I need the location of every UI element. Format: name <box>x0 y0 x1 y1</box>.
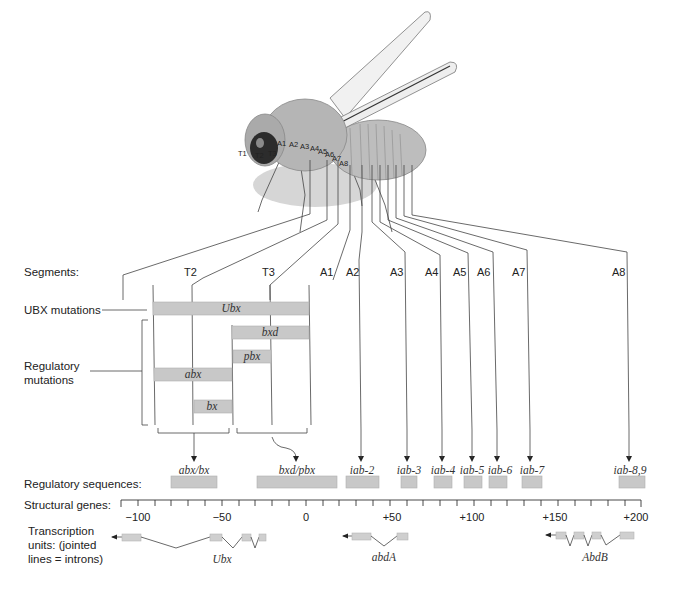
segment-a1: A1 <box>320 266 333 278</box>
leader-a6 <box>396 165 497 430</box>
regseq-bxd-pbx <box>257 476 337 488</box>
regseq-iab89 <box>619 476 645 488</box>
regseq-iab5-label: iab-5 <box>460 464 485 476</box>
mutation-abx-label: abx <box>185 368 203 380</box>
segments-row: T2 T3 A1 A2 A3 A4 A5 A6 A7 A8 <box>184 266 625 278</box>
regulatory-sequences: abx/bx bxd/pbx iab-2 iab-3 iab-4 iab-5 i… <box>171 464 647 488</box>
segment-a2: A2 <box>346 266 359 278</box>
ruler: −100 −50 0 +50 +100 +150 +200 <box>121 500 648 523</box>
regseq-abx-bx-label: abx/bx <box>179 464 211 476</box>
segment-a6: A6 <box>477 266 490 278</box>
transcription-unit-abda: abdA <box>342 533 408 563</box>
ubx-mutations-label: UBX mutations <box>24 304 101 316</box>
tick-plus-200: +200 <box>624 511 649 523</box>
regseq-iab6 <box>489 476 507 488</box>
regseq-iab7-label: iab-7 <box>520 464 546 476</box>
gene-abda-label: abdA <box>372 551 397 563</box>
fly-label-a1: A1 <box>277 139 286 148</box>
mutation-bxd-label: bxd <box>262 326 279 338</box>
segment-t3: T3 <box>262 266 275 278</box>
leader-arrowheads <box>358 430 632 462</box>
structural-genes-label: Structural genes: <box>24 499 111 511</box>
tick-minus-100: −100 <box>126 511 151 523</box>
leader-lines <box>123 160 629 430</box>
fly-label-a8: A8 <box>339 159 348 168</box>
leader-a4 <box>380 165 442 430</box>
leader-a5 <box>388 165 472 430</box>
segments-label: Segments: <box>24 266 79 278</box>
regseq-iab4-label: iab-4 <box>431 464 456 476</box>
fly-illustration: T1 T2 T3 A1 A2 A3 A4 A5 A6 A7 A8 <box>238 12 457 232</box>
transcription-label-3: lines = introns) <box>28 553 103 565</box>
mutation-bx-label: bx <box>207 400 219 412</box>
tick-minus-50: −50 <box>213 511 232 523</box>
regseq-abx-bx <box>171 476 217 488</box>
segment-a3: A3 <box>390 266 403 278</box>
regseq-bxd-pbx-label: bxd/pbx <box>279 464 316 477</box>
fly-label-t1: T1 <box>238 149 247 158</box>
fly-label-a2: A2 <box>289 140 298 149</box>
bithorax-complex-diagram: T1 T2 T3 A1 A2 A3 A4 A5 A6 A7 A8 Segment… <box>0 0 673 597</box>
leader-a3 <box>372 165 407 430</box>
fly-label-t2: T2 <box>255 151 264 160</box>
transcription-label-2: units: (jointed <box>28 539 96 551</box>
segment-a8: A8 <box>612 266 625 278</box>
transcription-unit-abdb: AbdB <box>545 532 634 563</box>
regseq-iab89-label: iab-8,9 <box>614 464 647 477</box>
mutation-pbx-label: pbx <box>243 350 262 363</box>
tick-0: 0 <box>303 511 309 523</box>
regulatory-sequences-label: Regulatory sequences: <box>24 478 142 490</box>
regulatory-mutations-label-1: Regulatory <box>24 360 80 372</box>
regulatory-mutations-label-2: mutations <box>24 374 74 386</box>
fly-label-t3: T3 <box>268 149 277 158</box>
gene-ubx-label: Ubx <box>212 553 232 565</box>
leader-a8 <box>412 165 629 430</box>
mutation-ubx-label: Ubx <box>221 302 241 314</box>
regseq-iab4 <box>434 476 452 488</box>
segment-a4: A4 <box>425 266 438 278</box>
regseq-iab3 <box>401 476 417 488</box>
gene-abdb-label: AbdB <box>581 551 608 563</box>
tick-plus-100: +100 <box>460 511 485 523</box>
segment-a7: A7 <box>512 266 525 278</box>
segment-a5: A5 <box>453 266 466 278</box>
fly-label-a3: A3 <box>300 142 309 151</box>
mutation-grid: Ubx bxd pbx abx bx <box>153 285 311 462</box>
regulatory-bracket <box>142 320 148 425</box>
regseq-iab5 <box>464 476 482 488</box>
transcription-label-1: Transcription <box>28 525 94 537</box>
tick-plus-50: +50 <box>383 511 402 523</box>
leader-a7 <box>404 165 530 430</box>
regseq-iab2 <box>346 476 379 488</box>
regseq-iab3-label: iab-3 <box>397 464 422 476</box>
segment-t2: T2 <box>184 266 197 278</box>
regseq-iab2-label: iab-2 <box>350 464 375 476</box>
regseq-iab7 <box>522 476 542 488</box>
transcription-unit-ubx: Ubx <box>111 534 266 565</box>
regseq-iab6-label: iab-6 <box>488 464 513 476</box>
tick-plus-150: +150 <box>543 511 568 523</box>
